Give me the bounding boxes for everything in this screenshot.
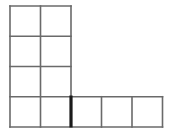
grid-cell-3-0[interactable] [10, 97, 41, 127]
grid-cell-2-0[interactable] [10, 67, 41, 97]
polyomino-figure [0, 0, 171, 135]
grid-cell-3-2[interactable] [71, 97, 102, 127]
grid-cell-0-1[interactable] [41, 6, 72, 36]
grid-cell-3-3[interactable] [102, 97, 133, 127]
grid-cell-3-1[interactable] [41, 97, 72, 127]
grid-diagram-svg [0, 0, 171, 135]
grid-cell-3-4[interactable] [132, 97, 163, 127]
grid-cell-1-0[interactable] [10, 36, 41, 66]
grid-cell-2-1[interactable] [41, 67, 72, 97]
grid-cell-0-0[interactable] [10, 6, 41, 36]
grid-cell-1-1[interactable] [41, 36, 72, 66]
